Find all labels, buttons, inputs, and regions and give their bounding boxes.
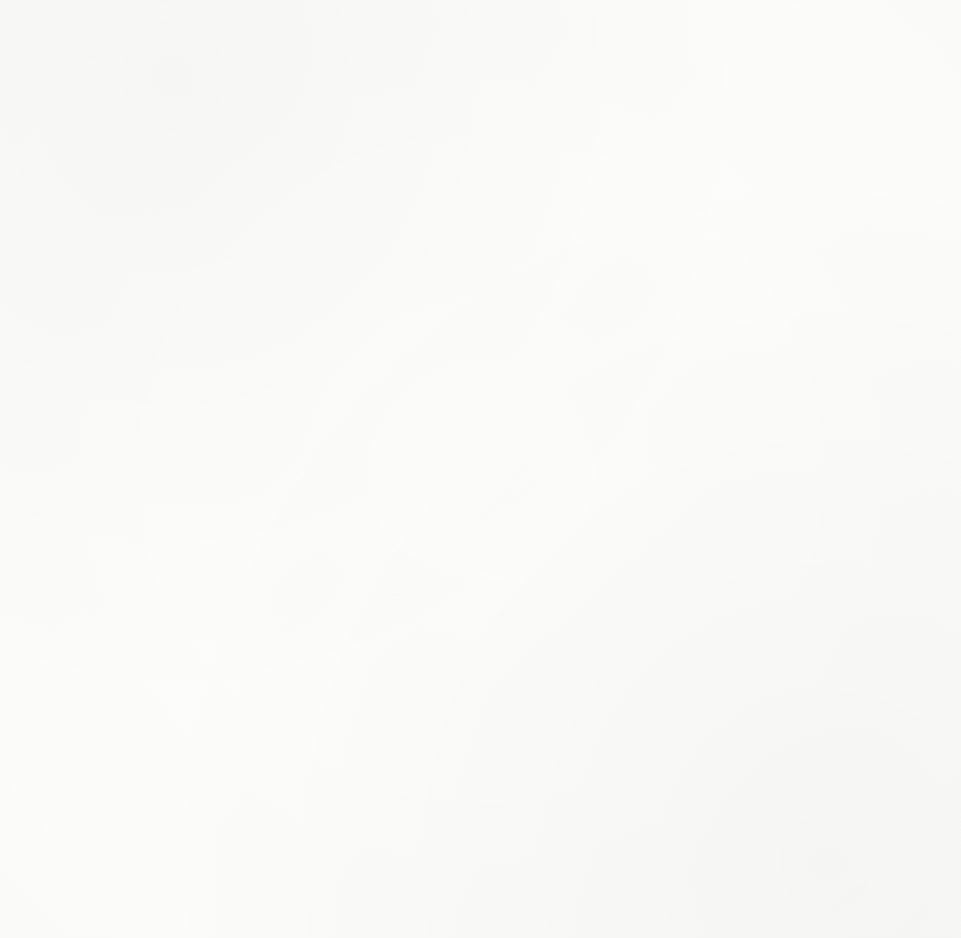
data-point (188, 271, 192, 275)
y-axis-tick-label: 100 (529, 495, 573, 515)
x-axis-title: Electricity access in % of Population (0, 903, 481, 926)
data-point (424, 520, 428, 524)
country-code-label: EC (284, 183, 299, 194)
data-point (595, 341, 599, 345)
gridline-vertical (649, 41, 650, 396)
country-code-label: SV (414, 737, 429, 748)
data-point (795, 180, 799, 184)
gridline-horizontal (105, 846, 450, 847)
country-code-label: GH (200, 261, 217, 272)
country-code-label: NP (777, 308, 792, 319)
data-point (723, 269, 727, 273)
data-point (669, 241, 673, 245)
country-code-label: NE (600, 813, 615, 824)
data-point (859, 518, 863, 522)
country-code-label: ZM (198, 747, 214, 758)
y-axis-tick-label: 75 (52, 580, 96, 600)
country-code-label: ID (746, 736, 757, 747)
country-code-label: MY (315, 102, 332, 113)
country-code-label: NP (399, 766, 414, 777)
data-point (775, 218, 779, 222)
country-code-label: NG (683, 288, 700, 299)
country-code-label: KW (773, 47, 792, 58)
country-code-label: SG (916, 543, 932, 554)
country-code-label: IL (876, 85, 886, 96)
data-point (398, 128, 402, 132)
country-code-label: BE (908, 531, 923, 542)
data-point (208, 239, 212, 243)
country-code-label: ET (613, 796, 627, 807)
data-point (870, 543, 874, 547)
y-axis-tick (98, 219, 103, 220)
country-code-label: CL (868, 556, 883, 567)
country-code-label: BD (362, 774, 378, 785)
data-point (412, 675, 416, 679)
y-axis-tick (98, 760, 103, 761)
country-code-label: DE (905, 89, 920, 100)
x-axis-title: Business Environment Index (481, 429, 961, 452)
y-axis-tick-label: 75 (529, 126, 573, 146)
y-axis-tick (575, 770, 580, 771)
country-code-label: LK (271, 268, 286, 279)
country-code-label: KW (916, 497, 933, 508)
country-code-label: MN (796, 766, 813, 777)
data-point (419, 682, 423, 686)
country-code-label: LR (729, 822, 744, 833)
data-point (424, 689, 428, 693)
country-code-label: AU (418, 70, 434, 81)
country-code-label: KH (615, 729, 631, 740)
country-code-label: SA (366, 103, 381, 114)
data-point (420, 632, 424, 636)
data-point (735, 631, 739, 635)
country-code-label: MX (796, 160, 813, 171)
data-point (709, 813, 713, 817)
data-point (262, 241, 266, 245)
data-point (424, 590, 428, 594)
data-point (333, 205, 337, 209)
data-point (900, 97, 904, 101)
country-code-label: UA (679, 196, 695, 207)
panel-log-gni: MWMZBINECDLRSLBFETTZRWBJMGUGZWMLSNBDPKSD… (0, 0, 481, 469)
data-point (809, 522, 813, 526)
country-code-label: JM (764, 228, 779, 239)
country-code-label: QA (912, 512, 929, 523)
gridline-vertical (912, 492, 913, 870)
data-point (724, 831, 728, 835)
y-axis-tick (575, 858, 580, 859)
country-code-label: CI (706, 226, 717, 237)
x-axis-tick (825, 396, 826, 401)
country-code-label: SN (187, 288, 202, 299)
country-code-label: KW (396, 47, 415, 58)
country-code-label: PK (338, 781, 353, 792)
data-point (715, 143, 719, 147)
x-axis-tick-label: 6 (761, 403, 770, 423)
country-code-label: QA (804, 60, 821, 71)
country-code-label: MG (166, 800, 184, 811)
country-code-label: UA (236, 198, 252, 209)
data-point (409, 745, 413, 749)
country-code-label: CI (213, 230, 224, 241)
data-point (243, 747, 247, 751)
data-point (216, 331, 220, 335)
data-point (646, 765, 650, 769)
country-code-label: KZ (309, 118, 324, 129)
data-point (420, 517, 424, 521)
gridline-horizontal (582, 137, 932, 138)
country-code-label: UY (348, 152, 363, 163)
y-axis-tick (575, 136, 580, 137)
data-point (177, 783, 181, 787)
plot-area: MWMZBINECDLRSLBFETTZRWBJMGUGZWMLSNBDPKSD… (104, 40, 451, 397)
y-axis-tick (575, 505, 580, 506)
country-code-label: DK (868, 503, 884, 514)
country-code-label: CN (316, 195, 332, 206)
x-axis-tick (589, 396, 590, 401)
x-axis-title: Urbanization rate in % of Population (481, 903, 961, 926)
country-code-label: PK (687, 792, 702, 803)
country-code-label: EG (699, 688, 715, 699)
data-point (725, 175, 729, 179)
data-point (867, 643, 871, 647)
country-code-label: BI (702, 339, 713, 350)
y-axis-tick (575, 682, 580, 683)
data-point (404, 82, 408, 86)
data-point (741, 744, 745, 748)
